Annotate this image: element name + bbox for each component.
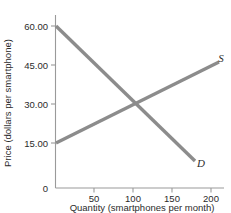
y-tick-label-45: 45.00 <box>24 60 48 71</box>
supply-demand-chart: 60.00 45.00 30.00 15.00 0 50 100 150 200… <box>0 0 231 213</box>
y-tick-labels: 60.00 45.00 30.00 15.00 0 <box>24 21 48 194</box>
y-axis-title: Price (dollars per smartphone) <box>2 39 13 167</box>
x-axis-title: Quantity (smartphones per month) <box>70 202 215 213</box>
y-tick-label-30: 30.00 <box>24 99 48 110</box>
x-tick-marks <box>94 188 211 193</box>
y-tick-label-60: 60.00 <box>24 21 48 32</box>
demand-curve-label: D <box>196 157 205 169</box>
series-group <box>56 26 219 161</box>
supply-curve <box>56 62 219 143</box>
y-tick-marks <box>51 26 56 143</box>
chart-canvas: 60.00 45.00 30.00 15.00 0 50 100 150 200… <box>0 0 231 213</box>
y-tick-label-0: 0 <box>43 183 48 194</box>
demand-curve <box>56 26 195 161</box>
y-tick-label-15: 15.00 <box>24 138 48 149</box>
supply-curve-label: S <box>218 52 224 64</box>
